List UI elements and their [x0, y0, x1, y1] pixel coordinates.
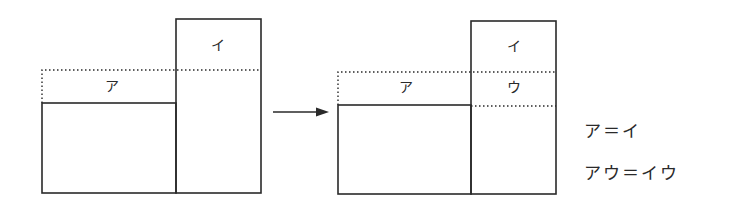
- equation-a-equals-i: ア＝イ: [584, 121, 641, 141]
- left-lower-rectangle: [42, 103, 176, 193]
- right-dotted-region-a: [338, 72, 556, 105]
- right-figure: [338, 21, 556, 194]
- right-label-i: イ: [507, 38, 521, 54]
- right-label-u: ウ: [507, 79, 521, 95]
- right-label-a: ア: [399, 79, 413, 95]
- right-arrow-icon: [273, 108, 329, 117]
- right-lower-rectangle: [338, 105, 471, 194]
- left-dotted-region-a: [42, 70, 261, 103]
- left-label-a: ア: [105, 78, 119, 94]
- equation-au-equals-iu: アウ＝イウ: [584, 163, 679, 183]
- left-figure: [42, 19, 261, 193]
- left-label-i: イ: [211, 37, 225, 53]
